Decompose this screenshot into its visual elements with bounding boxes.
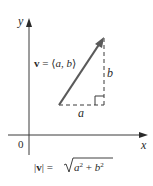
vector-v — [59, 43, 100, 105]
vector-arrowhead-icon — [95, 37, 104, 48]
origin-label: 0 — [18, 138, 24, 150]
vector-label: v = ⟨a, b⟩ — [34, 57, 76, 69]
x-axis-label: x — [140, 138, 147, 152]
right-angle-marker — [95, 96, 104, 105]
vector-label-eq: = ⟨ — [40, 57, 56, 69]
svg-text:|v| =: |v| = — [34, 161, 53, 173]
y-axis-arrow-icon — [26, 18, 32, 27]
vector-diagram: y x 0 a b v = ⟨a, b⟩ |v| = a2 + b2 — [0, 0, 153, 186]
formula-plus: + — [83, 161, 95, 173]
vector-label-close: ⟩ — [72, 57, 76, 69]
y-axis-label: y — [17, 14, 24, 28]
component-b-label: b — [107, 66, 113, 80]
svg-text:a2 + b2: a2 + b2 — [74, 161, 104, 173]
formula-exp-b: 2 — [100, 161, 104, 169]
magnitude-formula: |v| = a2 + b2 — [34, 158, 113, 173]
component-a-label: a — [78, 106, 84, 120]
formula-eq: = — [44, 161, 53, 173]
